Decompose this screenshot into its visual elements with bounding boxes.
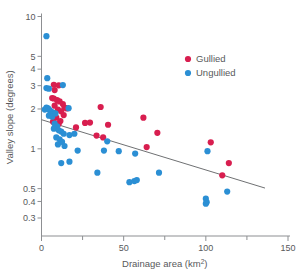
series-gullied: [49, 82, 232, 179]
data-point-ungullied: [156, 170, 162, 176]
legend-label-gullied: Gullied: [196, 53, 226, 64]
data-point-ungullied: [116, 148, 122, 154]
data-point-gullied: [61, 112, 67, 118]
data-point-ungullied: [94, 170, 100, 176]
y-tick-label: 1: [30, 144, 35, 154]
data-point-ungullied: [43, 33, 49, 39]
legend-swatch-gullied: [185, 56, 191, 62]
axis-titles: Drainage area (km2)Valley slope (degrees…: [4, 70, 207, 269]
y-tick-label: 4: [30, 64, 35, 74]
data-point-ungullied: [60, 82, 66, 88]
x-tick-label: 150: [280, 243, 295, 253]
data-point-ungullied: [132, 151, 138, 157]
x-axis-title: Drainage area (km2): [122, 258, 207, 270]
data-point-gullied: [144, 144, 150, 150]
data-point-ungullied: [58, 160, 64, 166]
y-axis-title: Valley slope (degrees): [4, 70, 15, 164]
data-point-ungullied: [66, 105, 72, 111]
data-point-ungullied: [104, 138, 110, 144]
y-tick-label: 0.5: [23, 184, 36, 194]
y-tick-label: 5: [30, 52, 35, 62]
data-point-ungullied: [101, 147, 107, 153]
data-point-ungullied: [44, 75, 50, 81]
x-tick-label: 0: [39, 243, 44, 253]
x-tick-label: 100: [198, 243, 213, 253]
data-point-ungullied: [46, 86, 52, 92]
data-point-gullied: [140, 115, 146, 121]
legend-label-ungullied: Ungullied: [196, 67, 236, 78]
data-point-gullied: [208, 139, 214, 145]
data-point-ungullied: [203, 201, 209, 207]
data-point-ungullied: [61, 131, 67, 137]
data-point-gullied: [226, 160, 232, 166]
data-point-ungullied: [134, 177, 140, 183]
data-point-gullied: [219, 172, 225, 178]
x-tick-label: 50: [119, 243, 129, 253]
y-tick-label: 10: [25, 12, 35, 22]
data-point-ungullied: [61, 143, 67, 149]
data-point-ungullied: [75, 147, 81, 153]
chart-legend: GulliedUngullied: [185, 53, 236, 78]
data-point-ungullied: [52, 110, 58, 116]
data-point-ungullied: [224, 188, 230, 194]
data-point-ungullied: [55, 141, 61, 147]
data-point-ungullied: [204, 148, 210, 154]
y-tick-label: 0.4: [23, 197, 36, 207]
data-point-gullied: [73, 124, 79, 130]
data-point-gullied: [87, 119, 93, 125]
y-tick-label: 0.3: [23, 213, 36, 223]
data-point-gullied: [154, 130, 160, 136]
data-point-gullied: [52, 87, 58, 93]
y-tick-label: 2: [30, 104, 35, 114]
data-point-gullied: [93, 132, 99, 138]
y-tick-label: 3: [30, 81, 35, 91]
chart-svg: 10543210.50.40.3050100150 GulliedUngulli…: [0, 0, 301, 278]
scatter-chart-figure: 10543210.50.40.3050100150 GulliedUngulli…: [0, 0, 301, 278]
legend-swatch-ungullied: [185, 70, 191, 76]
data-point-ungullied: [71, 131, 77, 137]
data-point-gullied: [105, 122, 111, 128]
data-point-ungullied: [66, 159, 72, 165]
data-point-gullied: [98, 104, 104, 110]
